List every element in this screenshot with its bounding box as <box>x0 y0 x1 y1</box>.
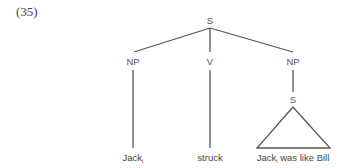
node-v: V <box>207 56 214 67</box>
edge-s-np-right <box>210 28 293 52</box>
leaf-clause-rest: was like Bill <box>278 152 330 163</box>
leaf-embedded-clause: Jacki was like Bill <box>257 152 330 164</box>
leaf-jack: Jacki <box>123 152 144 164</box>
edge-s-np-left <box>134 28 210 52</box>
leaf-jack-text: Jack <box>123 152 143 163</box>
triangle-abbreviation <box>257 107 330 148</box>
leaf-jack-subscript: i <box>142 158 143 164</box>
syntax-tree: S NP V NP S Jacki struck Jacki was like … <box>0 0 347 168</box>
leaf-struck: struck <box>197 152 223 163</box>
leaf-clause-jack: Jack <box>257 152 277 163</box>
node-embedded-s: S <box>290 94 296 105</box>
node-np-object: NP <box>286 56 299 67</box>
node-np-subject: NP <box>126 56 139 67</box>
node-root-s: S <box>207 15 213 26</box>
